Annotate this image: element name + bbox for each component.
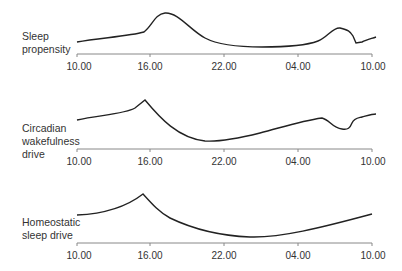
label-line: wakefulness <box>22 135 80 148</box>
tick-label: 10.00 <box>360 61 385 72</box>
tick-label: 04.00 <box>285 156 310 167</box>
label-line: sleep drive <box>22 229 80 242</box>
label-line: Circadian <box>22 122 80 135</box>
tick-label: 16.00 <box>137 250 162 261</box>
tick-label: 16.00 <box>137 61 162 72</box>
tick-label: 10.00 <box>66 61 91 72</box>
tick-label: 10.00 <box>66 250 91 261</box>
panel-homeostatic-sleep <box>77 194 372 246</box>
tick-label: 10.00 <box>66 156 91 167</box>
sleep-propensity-curve <box>77 13 376 47</box>
circadian-wakefulness-curve <box>77 100 376 141</box>
label-homeostatic-sleep: Homeostatic sleep drive <box>22 216 80 242</box>
panel-circadian-wakefulness <box>77 100 376 152</box>
label-sleep-propensity: Sleep propensity <box>22 30 70 56</box>
tick-label: 22.00 <box>211 61 236 72</box>
label-line: Sleep <box>22 30 70 43</box>
tick-label: 22.00 <box>211 156 236 167</box>
tick-label: 16.00 <box>137 156 162 167</box>
tick-label: 10.00 <box>360 156 385 167</box>
label-line: propensity <box>22 43 70 56</box>
homeostatic-sleep-curve <box>77 194 372 237</box>
label-line: Homeostatic <box>22 216 80 229</box>
tick-label: 10.00 <box>360 250 385 261</box>
tick-label: 04.00 <box>285 61 310 72</box>
tick-label: 04.00 <box>285 250 310 261</box>
tick-label: 22.00 <box>211 250 236 261</box>
panel-sleep-propensity <box>77 13 376 57</box>
